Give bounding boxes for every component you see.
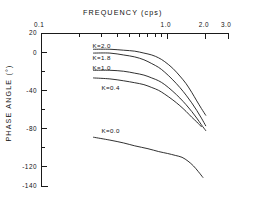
- y-tick-label: -40: [15, 87, 37, 94]
- curve-label: K=0.4: [101, 84, 119, 91]
- plot-area: [0, 0, 254, 200]
- y-tick-label: -80: [15, 125, 37, 132]
- y-tick-label: -140: [15, 182, 37, 189]
- curve-label: K=2.0: [92, 42, 110, 49]
- curve-k00: [94, 137, 203, 177]
- y-tick-label: 0: [15, 49, 37, 56]
- curve-label: K=1.0: [92, 64, 110, 71]
- x-tick-label: 1.0: [161, 21, 171, 28]
- axis-ticks: [41, 33, 228, 186]
- y-tick-label: 20: [15, 29, 37, 36]
- y-tick-label: -120: [15, 163, 37, 170]
- curve-label: K=0.0: [101, 127, 119, 134]
- axis-frame: [41, 33, 228, 186]
- x-tick-label: 3.0: [221, 21, 231, 28]
- curve-label: K=1.8: [92, 54, 110, 61]
- x-tick-label: 2.0: [199, 21, 209, 28]
- x-tick-label: 0.1: [34, 21, 44, 28]
- chart-figure: FREQUENCY (cps) PHASE ANGLE (°) 0.11.02.…: [0, 0, 254, 200]
